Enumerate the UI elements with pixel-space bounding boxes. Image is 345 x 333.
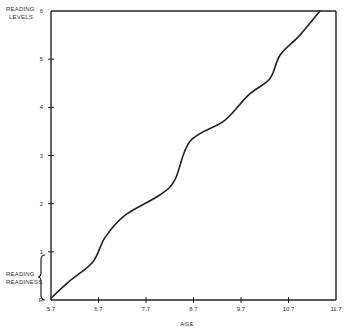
x-tick-label: 7.7 bbox=[142, 306, 151, 312]
readiness-label-line2: READINESS bbox=[6, 279, 42, 285]
x-tick-label: 11.7 bbox=[330, 306, 342, 312]
x-axis-title: AGE bbox=[180, 321, 193, 327]
y-axis-title-line2: LEVELS bbox=[9, 14, 33, 20]
x-tick-label: 6.7 bbox=[94, 306, 103, 312]
x-tick-label: 5.7 bbox=[47, 306, 56, 312]
y-tick-label: 6 bbox=[40, 8, 44, 14]
y-tick-label: 5 bbox=[40, 56, 44, 62]
x-axis-ticks: 5.76.77.78.79.710.711.7 bbox=[47, 297, 342, 312]
x-tick-label: 9.7 bbox=[237, 306, 246, 312]
y-tick-label: 3 bbox=[40, 153, 44, 159]
x-tick-label: 10.7 bbox=[283, 306, 295, 312]
y-tick-label: 1 bbox=[40, 249, 44, 255]
y-axis-title-line1: READING bbox=[6, 6, 35, 12]
plot-frame bbox=[51, 11, 336, 300]
y-tick-label: 4 bbox=[40, 104, 44, 110]
readiness-label-line1: READING bbox=[6, 271, 35, 277]
x-tick-label: 8.7 bbox=[189, 306, 198, 312]
reading-levels-chart: READING LEVELS R123456 5.76.77.78.79.710… bbox=[0, 0, 345, 333]
reading-level-curve bbox=[51, 11, 320, 298]
y-tick-label: 2 bbox=[40, 201, 44, 207]
readiness-brace bbox=[38, 255, 45, 300]
